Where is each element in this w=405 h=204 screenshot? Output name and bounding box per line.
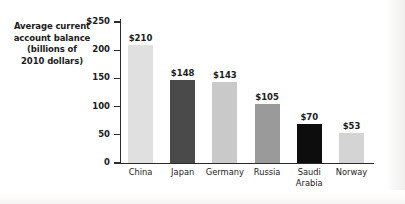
bar-germany[interactable]: $143 [212, 82, 237, 163]
y-tick-mark [114, 78, 121, 79]
y-axis-line [120, 19, 121, 164]
y-tick-mark [114, 134, 121, 135]
x-axis-line [120, 163, 374, 164]
bar-value-label: $105 [255, 92, 279, 102]
y-tick-label: 200 [68, 44, 110, 54]
bar-saudi-arabia[interactable]: $70 [297, 124, 322, 163]
chart-figure: Average current account balance (billion… [0, 0, 405, 204]
x-axis-label-norway: Norway [330, 167, 372, 178]
y-tick-label: $250 [68, 16, 110, 26]
bar-russia[interactable]: $105 [255, 104, 280, 163]
x-axis-label-japan: Japan [162, 167, 204, 178]
bar-value-label: $70 [300, 112, 318, 122]
x-axis-label-saudi-arabia: Saudi Arabia [288, 167, 330, 188]
plot-area: 050100150200$250 $210$148$143$105$70$53 … [0, 0, 405, 204]
bar-china[interactable]: $210 [128, 45, 153, 163]
y-tick-mark [114, 50, 121, 51]
bar-value-label: $53 [343, 121, 361, 131]
bar-value-label: $210 [129, 33, 153, 43]
y-tick-label: 150 [68, 72, 110, 82]
y-tick-mark [114, 106, 121, 107]
x-axis-label-russia: Russia [246, 167, 288, 178]
bar-value-label: $143 [213, 70, 237, 80]
y-tick-label: 0 [68, 157, 110, 167]
bar-japan[interactable]: $148 [170, 80, 195, 163]
x-axis-label-china: China [119, 167, 161, 178]
y-tick-label: 50 [68, 129, 110, 139]
y-tick-mark [114, 21, 121, 22]
y-tick-label: 100 [68, 101, 110, 111]
x-axis-label-germany: Germany [204, 167, 246, 178]
bar-value-label: $148 [171, 68, 195, 78]
y-tick-mark [114, 162, 121, 163]
bar-norway[interactable]: $53 [339, 133, 364, 163]
